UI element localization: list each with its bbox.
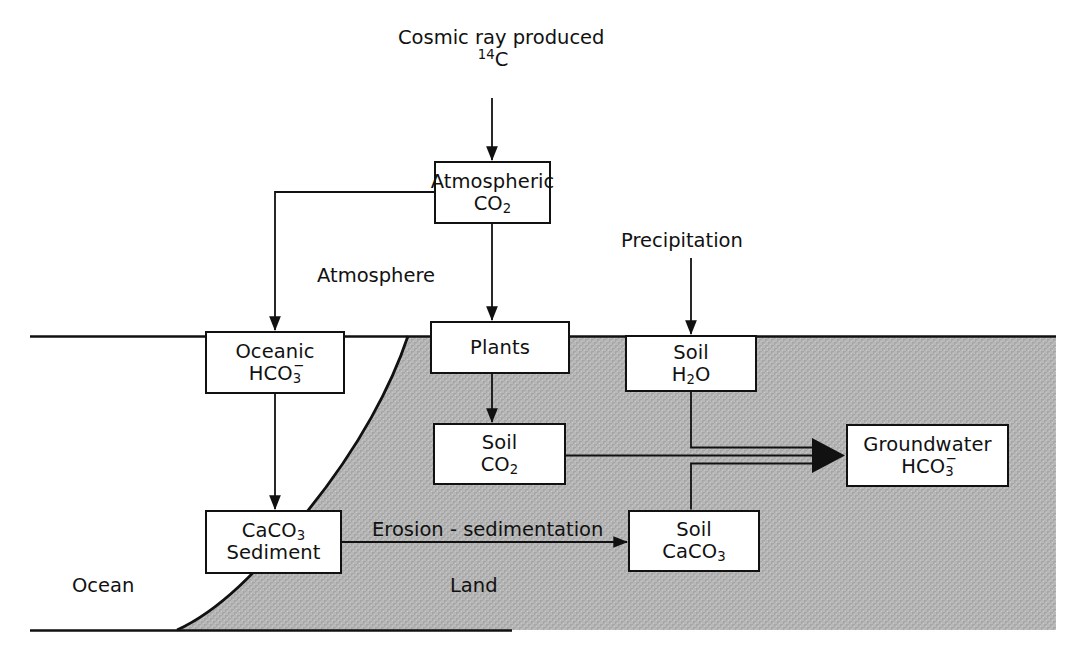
- soil-caco3-formula: CaCO3: [662, 541, 725, 563]
- label-erosion-sedimentation: Erosion - sedimentation: [372, 519, 603, 541]
- label-precipitation: Precipitation: [621, 230, 743, 252]
- arrow-atmospheric-to-oceanic: [275, 192, 434, 330]
- soil-co2-line1: Soil: [482, 432, 518, 454]
- cosmic-ray-source-label: Cosmic ray produced 14C: [398, 27, 588, 71]
- isotope-element: C: [495, 48, 509, 71]
- node-soil-h2o[interactable]: Soil H2O: [625, 335, 757, 392]
- cosmic-ray-line1: Cosmic ray produced: [398, 27, 588, 49]
- soil-h2o-line1: Soil: [673, 342, 709, 364]
- label-ocean: Ocean: [72, 575, 134, 597]
- caco3-sediment-formula: CaCO3: [242, 520, 305, 542]
- groundwater-hco3-formula: HCO3−: [901, 456, 953, 478]
- node-atmospheric-co2[interactable]: Atmospheric CO2: [434, 161, 551, 224]
- node-soil-caco3[interactable]: Soil CaCO3: [628, 510, 760, 572]
- plants-label: Plants: [470, 337, 530, 359]
- caco3-sediment-line2: Sediment: [227, 542, 321, 564]
- soil-co2-formula: CO2: [481, 454, 519, 476]
- groundwater-hco3-line1: Groundwater: [863, 434, 991, 456]
- atmospheric-co2-formula: CO2: [474, 193, 512, 215]
- diagram-canvas: Cosmic ray produced 14C Atmospheric CO2 …: [0, 0, 1088, 664]
- node-groundwater-hco3[interactable]: Groundwater HCO3−: [846, 424, 1009, 487]
- atmospheric-co2-line1: Atmospheric: [431, 171, 555, 193]
- label-atmosphere: Atmosphere: [317, 265, 435, 287]
- node-plants[interactable]: Plants: [430, 321, 570, 374]
- oceanic-hco3-formula: HCO3−: [249, 363, 301, 385]
- node-caco3-sediment[interactable]: CaCO3 Sediment: [205, 510, 342, 574]
- node-soil-co2[interactable]: Soil CO2: [433, 423, 566, 485]
- soil-h2o-formula: H2O: [672, 364, 711, 386]
- soil-caco3-line1: Soil: [676, 519, 712, 541]
- isotope-mass-number: 14: [478, 48, 495, 63]
- node-oceanic-hco3[interactable]: Oceanic HCO3−: [205, 331, 345, 394]
- cosmic-ray-isotope: 14C: [398, 49, 588, 71]
- label-land: Land: [450, 575, 498, 597]
